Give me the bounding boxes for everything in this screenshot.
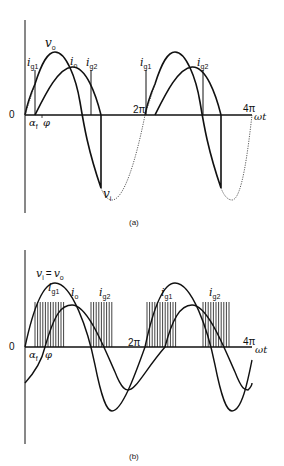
diagram-b-label-vi-vo: vi=vo <box>36 268 64 279</box>
diagram-a-axes <box>25 20 252 213</box>
diagram-b-alpha-label: αf <box>29 350 38 360</box>
waveform-diagram <box>0 0 284 466</box>
diagram-a-label-ig1-second: ig1 <box>140 57 151 68</box>
diagram-a-label-ig2: ig2 <box>86 57 97 68</box>
diagram-b-phi-label: φ <box>45 350 52 360</box>
diagram-a-label-ig1: ig1 <box>27 57 38 68</box>
diagram-a-label-io: io <box>70 56 77 67</box>
diagram-b-label-ig1: ig1 <box>48 282 59 293</box>
diagram-b-label-ig1-second: ig1 <box>161 287 172 298</box>
diagram-a-axis-label: ωt <box>254 112 266 122</box>
diagram-a-alpha-label: αf <box>29 118 38 128</box>
diagram-b-label-ig2: ig2 <box>99 287 110 298</box>
diagram-b-axis-label: ωt <box>255 345 267 355</box>
diagram-a-phi-label: φ <box>43 118 50 128</box>
diagram-a-tick-2pi: 2π <box>133 105 145 115</box>
diagram-b-origin-label: 0 <box>9 341 15 352</box>
diagram-a-caption: (a) <box>129 218 139 227</box>
diagram-a-vo-curve <box>25 52 221 188</box>
diagram-b-tick-2pi: 2π <box>128 338 140 348</box>
diagram-b-label-io: io <box>71 287 78 298</box>
diagram-a-origin-label: 0 <box>9 109 15 120</box>
diagram-a-label-vi: vi <box>103 188 111 200</box>
diagram-a-label-vo: vo <box>45 37 56 49</box>
diagram-b-label-ig2-second: ig2 <box>209 287 220 298</box>
diagram-a-label-ig2-second: ig2 <box>197 57 208 68</box>
diagram-b-caption: (b) <box>129 452 139 461</box>
diagram-b-tick-4pi: 4π <box>243 337 255 347</box>
